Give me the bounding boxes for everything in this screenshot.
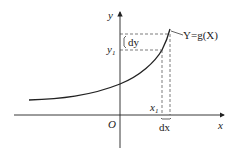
curve-label-leader (171, 31, 183, 35)
dx-label: dx (159, 121, 171, 133)
curve-label: Y=g(X) (183, 29, 218, 42)
curve-g (29, 29, 170, 100)
x-axis-label: x (217, 119, 223, 131)
dy-bracket (124, 36, 126, 48)
y-axis-label: y (107, 9, 113, 21)
diagram-canvas: y x O Y=g(X) dy dx y1 x1 (0, 0, 237, 156)
origin-label: O (108, 118, 116, 130)
dy-label: dy (128, 36, 140, 48)
y1-label: y1 (106, 43, 115, 57)
x1-label: x1 (149, 101, 158, 115)
dx-bracket (161, 118, 171, 119)
